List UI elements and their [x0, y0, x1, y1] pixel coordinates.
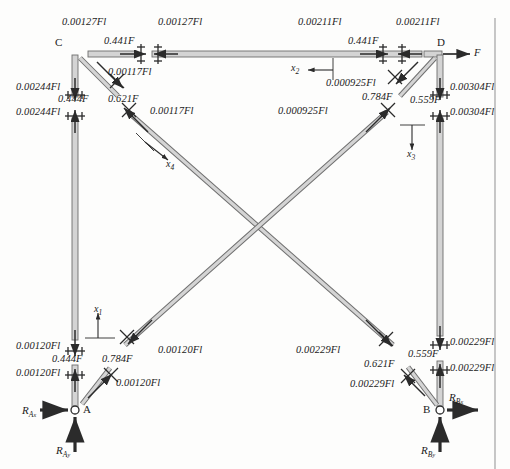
figure-canvas: 0.00127Fl 0.00127Fl 0.441F 0.00117Fl 0.0… — [0, 0, 510, 469]
label-m-diag-d: 0.000925Fl — [278, 105, 328, 116]
label-m-b-col-upper: 0.00229Fl — [450, 336, 494, 347]
force-group-top-beam-left-cut — [154, 44, 178, 64]
force-group-diag-da-cut — [366, 103, 395, 132]
label-m-c-top-right: 0.00127Fl — [158, 16, 202, 27]
force-group-left-col-bottom-lower — [65, 369, 85, 392]
label-m-c-diag: 0.00117Fl — [108, 66, 152, 77]
reaction-label-ay-base: R — [56, 444, 63, 456]
applied-load-label: F — [474, 47, 481, 58]
reaction-label-ax-base: R — [22, 404, 29, 416]
label-f-diag-c: 0.621F — [108, 93, 139, 104]
axis-label-x2-sub: 2 — [296, 67, 300, 76]
axis-label-x4-sub: 4 — [171, 163, 175, 172]
label-f-c-top: 0.441F — [104, 35, 135, 46]
reaction-label-by: RBy — [421, 444, 435, 459]
label-f-b-col: 0.559F — [408, 348, 439, 359]
axis-indicator-x3 — [400, 125, 425, 150]
force-group-right-col-bottom-lower — [430, 364, 450, 388]
force-group-diag-da-at-a-lower — [88, 368, 118, 398]
label-m-diag-c: 0.00117Fl — [150, 105, 194, 116]
label-m-d-col-lower: 0.00304Fl — [450, 106, 494, 117]
reaction-label-ay: RAy — [56, 444, 70, 459]
reaction-label-ay-sub: Ay — [63, 450, 70, 459]
reaction-label-ax-sub: Ax — [29, 410, 36, 419]
label-m-c-top-left: 0.00127Fl — [62, 16, 106, 27]
reaction-label-by-sub: By — [428, 450, 435, 459]
axis-label-x2: x2 — [291, 62, 299, 76]
label-f-c-col: 0.444F — [58, 93, 89, 104]
node-label-c: C — [55, 36, 62, 48]
node-label-a: A — [83, 403, 91, 415]
force-group-right-col-bottom-upper — [430, 326, 450, 350]
axis-label-x3-sub: 3 — [412, 153, 416, 162]
force-group-top-beam-left — [120, 44, 146, 64]
label-m-d-top-right: 0.00211Fl — [396, 16, 440, 27]
label-m-diag-a-lower: 0.00120Fl — [116, 377, 160, 388]
label-m-b-col-lower: 0.00229Fl — [450, 362, 494, 373]
axis-label-x1: x1 — [94, 303, 102, 317]
label-f-diag-d: 0.784F — [362, 91, 393, 102]
node-label-d: D — [437, 36, 445, 48]
force-group-top-beam-right-cut — [398, 44, 422, 64]
reaction-label-bx-sub: Bx — [456, 397, 463, 406]
force-group-right-col-lower — [430, 110, 450, 133]
label-m-a-col-upper: 0.00120Fl — [16, 340, 60, 351]
member-diagonal-d-a — [82, 58, 435, 404]
label-m-d-diag: 0.000925Fl — [326, 77, 376, 88]
node-label-b: B — [423, 403, 430, 415]
label-f-diag-a: 0.784F — [102, 353, 133, 364]
label-m-d-top-left: 0.00211Fl — [298, 16, 342, 27]
label-f-d-col: 0.559F — [410, 94, 441, 105]
axis-label-x3: x3 — [407, 148, 415, 162]
reaction-label-bx-base: R — [449, 391, 456, 403]
axis-indicator-x4 — [136, 133, 168, 160]
pin-node-a — [71, 406, 79, 414]
label-m-d-col-upper: 0.00304Fl — [450, 81, 494, 92]
reaction-label-ax: RAx — [22, 404, 36, 419]
label-m-c-col-lower: 0.00244Fl — [16, 106, 60, 117]
label-f-a-col: 0.444F — [52, 353, 83, 364]
reaction-label-by-base: R — [421, 444, 428, 456]
label-m-a-col-lower: 0.00120Fl — [16, 367, 60, 378]
label-m-diag-a-upper: 0.00120Fl — [158, 344, 202, 355]
label-f-d-top: 0.441F — [348, 35, 379, 46]
reaction-label-bx: RBx — [449, 391, 463, 406]
label-f-diag-b: 0.621F — [364, 358, 395, 369]
pin-node-b — [436, 406, 444, 414]
label-m-c-col-upper: 0.00244Fl — [16, 81, 60, 92]
member-diagonal-c-b — [80, 58, 437, 405]
axis-label-x1-sub: 1 — [99, 308, 103, 317]
force-group-top-beam-right — [360, 44, 388, 64]
label-m-diag-b-lower: 0.00229Fl — [350, 378, 394, 389]
force-group-left-col-lower — [65, 110, 85, 133]
diagram-svg — [0, 0, 510, 469]
axis-label-x4: x4 — [166, 158, 174, 172]
label-m-diag-b-upper: 0.00229Fl — [296, 344, 340, 355]
force-group-diag-cb-at-b-upper — [366, 320, 393, 346]
